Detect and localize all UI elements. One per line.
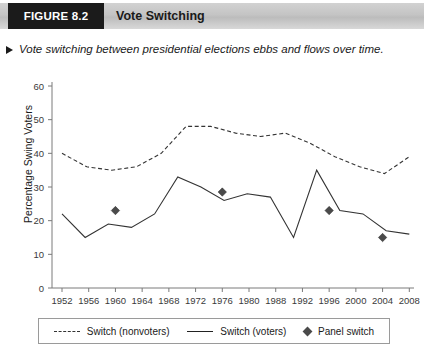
legend-label-voters: Switch (voters) (220, 326, 286, 337)
y-tick-label: 0 (39, 283, 44, 294)
legend-item-voters: Switch (voters) (187, 326, 286, 337)
panel-switch-marker (378, 233, 386, 241)
line-chart-svg: 0102030405060 19521956196019641968197219… (0, 72, 424, 312)
x-tick-label: 1992 (292, 295, 313, 306)
y-tick-label: 30 (33, 182, 44, 193)
x-tick-label: 1976 (212, 295, 233, 306)
x-tick-label: 2000 (345, 295, 366, 306)
figure-title: Vote Switching (116, 3, 205, 29)
panel-switch-marker (218, 188, 226, 196)
chart-area: Percentage Swing Voters 0102030405060 19… (0, 72, 424, 312)
y-axis-ticks: 0102030405060 (33, 81, 52, 294)
x-tick-label: 1964 (132, 295, 153, 306)
legend-item-panel-switch: Panel switch (304, 326, 374, 337)
x-tick-label: 1956 (78, 295, 99, 306)
panel-switch-marker (325, 206, 333, 214)
x-tick-label: 1980 (238, 295, 259, 306)
y-tick-label: 60 (33, 81, 44, 92)
x-tick-label: 1996 (319, 295, 340, 306)
x-tick-label: 1988 (265, 295, 286, 306)
series-switch-nonvoters (62, 126, 409, 173)
x-tick-label: 1952 (51, 295, 72, 306)
caption-row: Vote switching between presidential elec… (6, 42, 418, 56)
x-tick-label: 2004 (372, 295, 393, 306)
figure-number-tag: FIGURE 8.2 (8, 3, 104, 29)
diamond-marker-icon (303, 326, 313, 336)
x-tick-label: 2008 (399, 295, 420, 306)
x-tick-label: 1972 (185, 295, 206, 306)
x-tick-label: 1968 (158, 295, 179, 306)
y-tick-label: 40 (33, 148, 44, 159)
chart-legend: Switch (nonvoters) Switch (voters) Panel… (38, 318, 390, 344)
legend-label-nonvoters: Switch (nonvoters) (87, 326, 170, 337)
caption-arrow-icon (6, 46, 13, 54)
x-tick-label: 1960 (105, 295, 126, 306)
y-tick-label: 50 (33, 114, 44, 125)
y-tick-label: 20 (33, 215, 44, 226)
y-tick-label: 10 (33, 249, 44, 260)
legend-label-panel-switch: Panel switch (318, 326, 374, 337)
series-switch-voters (62, 170, 409, 237)
dashed-line-icon (54, 331, 80, 332)
figure-panel: FIGURE 8.2 Vote Switching Vote switching… (0, 0, 424, 351)
solid-line-icon (187, 331, 213, 332)
x-axis-ticks: 1952195619601964196819721976198019881992… (51, 288, 419, 306)
caption-text: Vote switching between presidential elec… (19, 42, 384, 56)
legend-item-nonvoters: Switch (nonvoters) (54, 326, 170, 337)
panel-switch-marker (111, 206, 119, 214)
